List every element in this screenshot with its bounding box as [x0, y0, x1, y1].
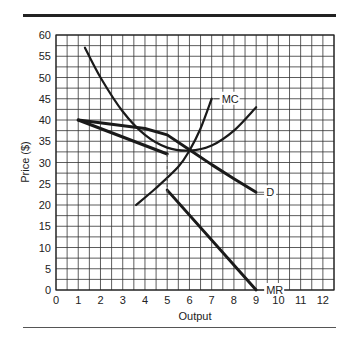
- y-tick-label: 15: [39, 220, 51, 232]
- y-axis-ticks: 051015202530354045505560: [39, 29, 51, 296]
- series-layer: DMRMC: [78, 48, 284, 296]
- x-tick-label: 7: [209, 294, 215, 306]
- x-tick-label: 8: [231, 294, 237, 306]
- x-axis-ticks: 0123456789101112: [53, 294, 329, 306]
- x-tick-label: 2: [97, 294, 103, 306]
- top-rule: [23, 14, 336, 17]
- y-tick-label: 35: [39, 135, 51, 147]
- y-tick-label: 25: [39, 178, 51, 190]
- y-tick-label: 10: [39, 242, 51, 254]
- y-tick-label: 55: [39, 50, 51, 62]
- series-label-d: D: [266, 186, 274, 198]
- y-tick-label: 60: [39, 29, 51, 41]
- y-tick-label: 40: [39, 114, 51, 126]
- y-tick-label: 50: [39, 72, 51, 84]
- y-tick-label: 5: [45, 263, 51, 275]
- y-axis-label: Price ($): [19, 141, 31, 183]
- y-tick-label: 30: [39, 157, 51, 169]
- y-tick-label: 0: [45, 284, 51, 296]
- x-tick-label: 9: [253, 294, 259, 306]
- x-tick-label: 5: [164, 294, 170, 306]
- series-label-mc: MC: [222, 93, 239, 105]
- bottom-rule: [23, 327, 336, 328]
- x-tick-label: 4: [142, 294, 148, 306]
- x-tick-label: 6: [186, 294, 192, 306]
- y-tick-label: 45: [39, 93, 51, 105]
- x-tick-label: 12: [317, 294, 329, 306]
- x-tick-label: 3: [120, 294, 126, 306]
- x-tick-label: 1: [75, 294, 81, 306]
- chart: 051015202530354045505560 012345678910111…: [0, 0, 352, 343]
- x-tick-label: 11: [295, 294, 306, 306]
- x-tick-label: 0: [53, 294, 59, 306]
- y-tick-label: 20: [39, 199, 51, 211]
- x-axis-label: Output: [178, 310, 211, 322]
- series-label-mr: MR: [266, 284, 283, 296]
